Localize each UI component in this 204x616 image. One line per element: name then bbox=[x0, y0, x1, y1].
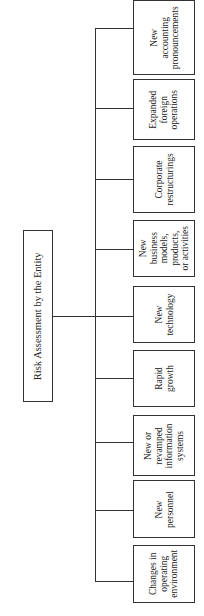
root-label: Risk Assessment by the Entity bbox=[33, 252, 44, 380]
node-new-personnel: New personnel bbox=[133, 480, 195, 538]
node-label: New accounting pronouncements bbox=[148, 6, 180, 69]
node-label: New technology bbox=[154, 293, 175, 335]
node-label: Expanded foreign operations bbox=[148, 90, 180, 130]
trunk-line bbox=[95, 28, 96, 582]
node-new-technology: New technology bbox=[133, 286, 195, 343]
node-new-or-revamped-information-systems: New or revamped information systems bbox=[133, 415, 195, 476]
node-new-business-models: New business models, products, or activi… bbox=[133, 220, 195, 277]
branch-connector bbox=[95, 108, 133, 109]
node-label: Rapid growth bbox=[153, 365, 174, 392]
node-label: Changes in operating environment bbox=[148, 550, 180, 598]
branch-connector bbox=[95, 28, 133, 29]
node-label: New business models, products, or activi… bbox=[138, 226, 191, 271]
branch-connector bbox=[95, 316, 133, 317]
node-label: New or revamped information systems bbox=[143, 423, 185, 468]
root-node: Risk Assessment by the Entity bbox=[23, 230, 53, 402]
branch-connector bbox=[95, 249, 133, 250]
branch-connector bbox=[95, 442, 133, 443]
node-corporate-restructurings: Corporate restructurings bbox=[133, 146, 195, 213]
root-connector bbox=[53, 316, 95, 317]
node-rapid-growth: Rapid growth bbox=[133, 350, 195, 407]
branch-connector bbox=[95, 581, 133, 582]
branch-connector bbox=[95, 510, 133, 511]
node-new-accounting-pronouncements: New accounting pronouncements bbox=[133, 0, 195, 75]
node-expanded-foreign-operations: Expanded foreign operations bbox=[133, 79, 195, 140]
node-label: New personnel bbox=[154, 491, 175, 528]
branch-connector bbox=[95, 378, 133, 379]
node-changes-in-operating-environment: Changes in operating environment bbox=[133, 545, 195, 603]
node-label: Corporate restructurings bbox=[154, 153, 175, 205]
branch-connector bbox=[95, 179, 133, 180]
